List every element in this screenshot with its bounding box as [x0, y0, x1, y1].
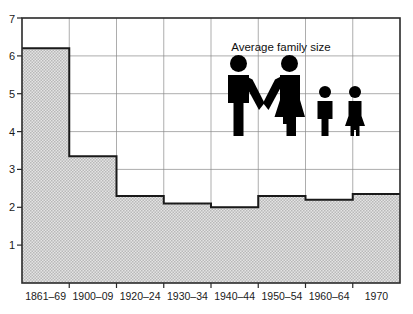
chart-title: Average family size — [231, 41, 331, 53]
average-family-size-chart: 1 2 3 4 5 6 7 1861–69 1900–09 1920–24 19… — [0, 0, 413, 314]
xtick-label-1900-09: 1900–09 — [72, 290, 113, 302]
boy-head-icon — [319, 86, 331, 98]
ytick-label-5: 5 — [9, 88, 15, 100]
girl-head-icon — [349, 86, 361, 98]
man-head-icon — [230, 55, 247, 72]
xtick-label-1950-54: 1950–54 — [261, 290, 302, 302]
xtick-label-1960-64: 1960–64 — [309, 290, 350, 302]
woman-head-icon — [281, 55, 298, 72]
ytick-label-2: 2 — [9, 201, 15, 213]
xtick-label-1970: 1970 — [365, 290, 389, 302]
ytick-label-1: 1 — [9, 239, 15, 251]
ytick-label-4: 4 — [9, 126, 15, 138]
ytick-label-7: 7 — [9, 13, 15, 25]
xtick-label-1930-34: 1930–34 — [167, 290, 208, 302]
x-axis-labels: 1861–69 1900–09 1920–24 1930–34 1940–44 … — [25, 290, 388, 302]
chart-container: 1 2 3 4 5 6 7 1861–69 1900–09 1920–24 19… — [0, 0, 413, 314]
xtick-label-1861-69: 1861–69 — [25, 290, 66, 302]
xtick-label-1920-24: 1920–24 — [120, 290, 161, 302]
xtick-label-1940-44: 1940–44 — [214, 290, 255, 302]
ytick-label-6: 6 — [9, 50, 15, 62]
ytick-label-3: 3 — [9, 163, 15, 175]
